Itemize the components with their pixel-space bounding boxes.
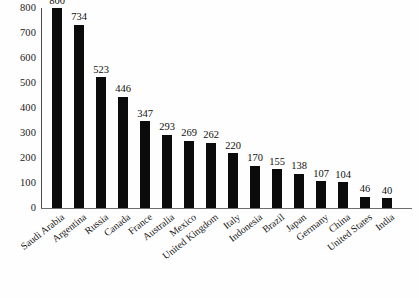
y-axis-tick-label: 400 [2, 103, 36, 114]
bar [206, 143, 216, 209]
bar-group: 46 [354, 8, 376, 208]
bar-group: 220 [222, 8, 244, 208]
bar-group: 800 [46, 8, 68, 208]
bar-group: 347 [134, 8, 156, 208]
bar-group: 734 [68, 8, 90, 208]
bar-chart: 0100200300400500600700800 80073452344634… [0, 0, 419, 298]
bar-group: 155 [266, 8, 288, 208]
bar [140, 121, 150, 208]
category-label-text: India [374, 212, 396, 233]
bar-value-label: 40 [367, 186, 407, 197]
bar [316, 181, 326, 208]
y-axis-tick-label: 800 [2, 3, 36, 14]
bar-group: 104 [332, 8, 354, 208]
bar [382, 198, 392, 208]
bar [96, 77, 106, 208]
y-axis-tick-label: 600 [2, 53, 36, 64]
plot-area: 8007345234463472932692622201701551381071… [41, 8, 412, 208]
bar [250, 166, 260, 209]
category-label-text: Brazil [261, 212, 286, 235]
bar [360, 197, 370, 209]
y-axis-tick-label: 100 [2, 178, 36, 189]
bar-value-label: 800 [37, 0, 77, 6]
bar [184, 141, 194, 208]
bar [74, 25, 84, 209]
bar-group: 523 [90, 8, 112, 208]
bar-group: 262 [200, 8, 222, 208]
y-axis-tick-label: 200 [2, 153, 36, 164]
bar-group: 170 [244, 8, 266, 208]
y-axis-tick-label: 500 [2, 78, 36, 89]
bar [272, 169, 282, 208]
x-axis-line [41, 208, 412, 209]
y-axis-tick-label: 300 [2, 128, 36, 139]
bar-group: 269 [178, 8, 200, 208]
bar [162, 135, 172, 208]
y-axis-tick-label: 0 [2, 203, 36, 214]
bar-group: 40 [376, 8, 398, 208]
y-axis-tick-label: 700 [2, 28, 36, 39]
bar-group: 293 [156, 8, 178, 208]
bar [52, 8, 62, 208]
